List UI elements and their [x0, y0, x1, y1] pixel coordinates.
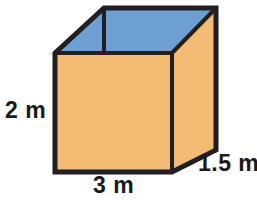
- width-dimension-label: 3 m: [93, 174, 134, 197]
- front-face: [55, 53, 172, 172]
- depth-dimension-label: 1.5 m: [198, 152, 257, 175]
- prism-diagram: 2 m 3 m 1.5 m: [0, 0, 257, 201]
- height-dimension-label: 2 m: [5, 99, 46, 122]
